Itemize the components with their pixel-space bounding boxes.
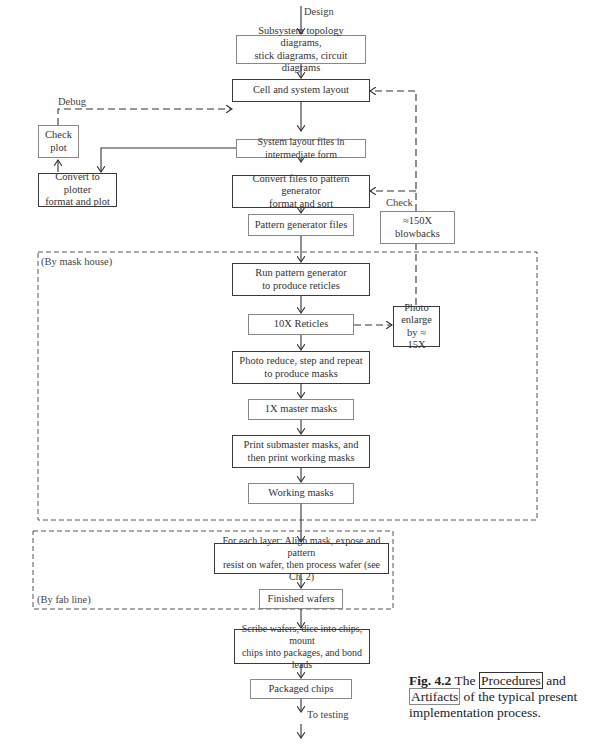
node-text: blowbacks <box>395 228 440 241</box>
node-text: Convert to plotter <box>42 171 113 196</box>
node-working-masks: Working masks <box>248 483 354 504</box>
node-layout-files: System layout files in intermediate form <box>236 139 366 158</box>
figure-number: Fig. 4.2 <box>409 673 451 688</box>
node-text: Cell and system layout <box>253 84 349 97</box>
figure-caption: Fig. 4.2 The Procedures and Artifacts of… <box>409 673 599 721</box>
debug-label: Debug <box>58 96 86 107</box>
node-text: Print submaster masks, and <box>244 439 359 452</box>
node-master-masks: 1X master masks <box>248 399 354 420</box>
fab-line-label: (By fab line) <box>37 594 91 605</box>
flow-diagram: Design Debug Check (By mask house) (By f… <box>0 0 606 753</box>
node-text: Run pattern generator <box>255 267 347 280</box>
node-text: format and sort <box>236 198 366 211</box>
node-text: 10X Reticles <box>274 318 329 331</box>
caption-artifacts-box: Artifacts <box>409 688 460 705</box>
node-text: For each layer: Align mask, expose and p… <box>218 535 385 559</box>
node-text: Finished wafers <box>268 593 335 606</box>
node-text: Photo <box>397 302 436 315</box>
node-convert-plotter: Convert to plotter format and plot <box>38 173 117 207</box>
to-testing-label: To testing <box>307 709 349 720</box>
caption-text: and <box>546 673 566 688</box>
node-convert-pg: Convert files to pattern generator forma… <box>232 175 370 208</box>
node-photo-enlarge: Photo enlarge by ≈ 15X <box>393 306 440 347</box>
node-text: to produce masks <box>239 368 362 381</box>
node-reticles: 10X Reticles <box>248 314 354 335</box>
node-text: Working masks <box>268 487 333 500</box>
node-cell-system-layout: Cell and system layout <box>232 79 370 102</box>
node-text: Scribe wafers, dice into chips, mount <box>238 623 366 647</box>
node-run-pg: Run pattern generator to produce reticle… <box>232 263 370 296</box>
node-photo-reduce: Photo reduce, step and repeat to produce… <box>232 351 370 384</box>
node-text: plot <box>45 142 72 155</box>
node-text: System layout files in intermediate form <box>240 136 362 161</box>
node-text: Pattern generator files <box>255 219 348 232</box>
node-pg-files: Pattern generator files <box>248 214 354 236</box>
mask-house-label: (By mask house) <box>41 256 112 267</box>
node-text: format and plot <box>42 196 113 209</box>
node-finished-wafers: Finished wafers <box>259 589 343 609</box>
node-text: Photo reduce, step and repeat <box>239 355 362 368</box>
caption-procedures-box: Procedures <box>479 672 543 689</box>
node-text: chips into packages, and bond leads <box>238 647 366 671</box>
node-text: stick diagrams, circuit diagrams <box>240 50 362 75</box>
caption-text: The <box>455 673 476 688</box>
node-text: Subsystem topology diagrams, <box>240 25 362 50</box>
node-text: Packaged chips <box>268 683 333 696</box>
node-scribe: Scribe wafers, dice into chips, mount ch… <box>234 629 370 664</box>
design-label: Design <box>304 6 334 17</box>
node-blowbacks: ≈150X blowbacks <box>380 211 455 244</box>
node-text: enlarge <box>397 314 436 327</box>
node-text: 1X master masks <box>265 403 337 416</box>
node-packaged-chips: Packaged chips <box>250 679 352 699</box>
node-text: ≈150X <box>395 215 440 228</box>
node-text: resist on wafer, then process wafer (see… <box>218 559 385 583</box>
node-subsystem-diagrams: Subsystem topology diagrams, stick diagr… <box>236 35 366 64</box>
node-text: then print working masks <box>244 452 359 465</box>
check-label: Check <box>386 197 413 208</box>
node-text: Check <box>45 129 72 142</box>
node-process-wafer: For each layer: Align mask, expose and p… <box>214 543 389 574</box>
node-check-plot: Check plot <box>38 125 79 158</box>
node-text: by ≈ 15X <box>397 327 436 352</box>
node-text: Convert files to pattern generator <box>236 173 366 198</box>
node-text: to produce reticles <box>255 280 347 293</box>
node-print-masks: Print submaster masks, and then print wo… <box>232 435 370 468</box>
